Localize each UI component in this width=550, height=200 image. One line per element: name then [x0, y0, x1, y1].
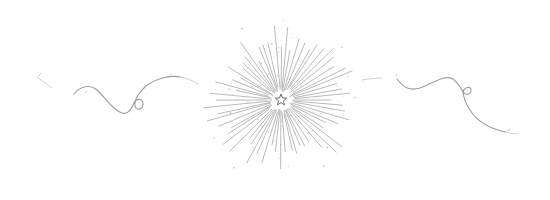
starburst-speck — [329, 68, 330, 69]
starburst-speck — [295, 73, 296, 74]
starburst-speck — [282, 20, 283, 21]
starburst-speck — [274, 140, 275, 141]
starburst-speck — [281, 121, 282, 122]
starburst-icon — [204, 26, 352, 169]
starburst-speck — [315, 122, 316, 123]
starburst-speck — [311, 130, 313, 132]
starburst-speck — [307, 132, 309, 134]
starburst-speck — [354, 97, 356, 99]
starburst-speck — [337, 86, 338, 87]
divider-illustration: Hand-drawn pencil sketch divider: centra… — [0, 0, 550, 200]
starburst-ray — [281, 47, 282, 87]
star-icon — [275, 94, 286, 105]
starburst-speck — [242, 93, 243, 94]
starburst-speck — [280, 144, 281, 145]
starburst-ray — [293, 84, 336, 97]
starburst-speck — [251, 68, 252, 69]
starburst-ray — [293, 66, 334, 92]
starburst-speck — [312, 73, 313, 74]
starburst-speck — [252, 146, 253, 147]
starburst-speck — [342, 47, 343, 48]
starburst-speck — [323, 166, 324, 167]
starburst-speck — [308, 116, 309, 117]
starburst-speck — [277, 75, 278, 76]
starburst-speck — [297, 37, 298, 38]
starburst-speck — [253, 106, 254, 107]
starburst-speck — [281, 125, 282, 126]
starburst-speck — [268, 73, 269, 74]
starburst-speck — [261, 63, 263, 65]
starburst-speck — [235, 100, 236, 101]
starburst-speck — [228, 88, 230, 90]
starburst-ray — [291, 49, 333, 90]
starburst-speck — [247, 101, 248, 102]
starburst-speck — [331, 86, 332, 87]
starburst-speck — [247, 119, 249, 121]
starburst-ray — [208, 103, 271, 121]
starburst-speck — [271, 43, 273, 45]
starburst-speck — [208, 118, 209, 119]
starburst-speck — [254, 57, 255, 58]
starburst-ray — [289, 45, 317, 88]
starburst-ray — [243, 68, 270, 91]
starburst-ray — [230, 110, 272, 152]
starburst-speck — [262, 127, 264, 129]
left-vine-icon — [37, 73, 198, 113]
starburst-ray — [275, 26, 281, 89]
starburst-speck — [254, 41, 255, 42]
starburst-speck — [313, 119, 314, 120]
starburst-speck — [301, 85, 302, 86]
starburst-speck — [339, 101, 340, 102]
starburst-speck — [289, 115, 291, 117]
starburst-speck — [342, 96, 343, 97]
starburst-speck — [240, 64, 241, 65]
starburst-speck — [331, 99, 332, 100]
starburst-speck — [268, 131, 269, 132]
starburst-speck — [320, 113, 321, 114]
starburst-ray — [291, 103, 349, 120]
starburst-speck — [278, 47, 279, 48]
starburst-speck — [288, 166, 289, 167]
starburst-speck — [333, 109, 334, 110]
sketch-artwork — [0, 0, 550, 200]
starburst-speck — [305, 114, 306, 115]
starburst-speck — [293, 37, 294, 38]
starburst-speck — [311, 64, 312, 65]
right-vine-icon — [362, 74, 518, 134]
starburst-speck — [347, 76, 348, 77]
starburst-speck — [257, 86, 259, 88]
starburst-speck — [214, 138, 215, 139]
starburst-ray — [287, 109, 309, 142]
starburst-speck — [335, 81, 336, 82]
starburst-speck — [313, 112, 314, 113]
starburst-ray — [228, 107, 270, 134]
starburst-speck — [259, 154, 260, 155]
starburst-speck — [298, 121, 299, 122]
starburst-speck — [257, 119, 258, 120]
starburst-speck — [210, 66, 211, 67]
starburst-speck — [233, 167, 235, 169]
starburst-speck — [247, 107, 249, 109]
starburst-speck — [326, 147, 328, 149]
starburst-speck — [230, 112, 232, 114]
starburst-speck — [288, 143, 289, 144]
starburst-ray — [243, 62, 275, 93]
starburst-speck — [271, 117, 272, 118]
starburst-speck — [311, 125, 312, 126]
starburst-speck — [247, 72, 248, 73]
starburst-speck — [278, 158, 279, 159]
starburst-speck — [251, 86, 252, 87]
starburst-ray — [250, 110, 272, 138]
starburst-speck — [278, 51, 279, 52]
starburst-speck — [241, 28, 243, 30]
